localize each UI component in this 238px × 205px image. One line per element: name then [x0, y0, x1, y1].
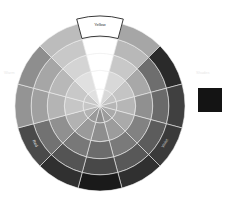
side-label-right: Shades	[196, 70, 210, 75]
side-label-left: Warm	[4, 70, 15, 75]
segment-label-yellow: Yellow	[94, 22, 106, 27]
selected-color-swatch	[198, 88, 222, 112]
selected-segment-outline[interactable]	[77, 16, 124, 39]
